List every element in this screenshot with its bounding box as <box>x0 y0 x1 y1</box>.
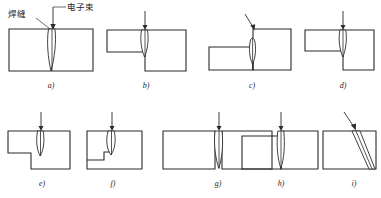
panel-f: f) <box>87 112 142 188</box>
panel-b-left-plate <box>107 30 145 52</box>
weld-seam-leader-line <box>36 18 50 29</box>
panel-g-weld-bead <box>214 131 222 168</box>
panel-c: c) <box>209 14 291 90</box>
annotation-weld-seam: 焊缝 <box>8 9 50 29</box>
panel-i: i) <box>323 112 376 188</box>
panel-i-caption: i) <box>352 179 357 188</box>
weld-seam-label: 焊缝 <box>8 9 26 19</box>
panel-d-caption: d) <box>340 81 347 90</box>
panel-c-beam-arrow-shaft <box>245 14 253 27</box>
panel-e-beam-arrowhead <box>39 126 44 131</box>
panel-a-weld-bead <box>48 29 56 71</box>
panel-c-left-plate <box>209 47 253 70</box>
panel-a: a) <box>9 29 93 90</box>
panel-i-weld-bead <box>352 131 375 169</box>
panel-d: d) <box>305 11 374 90</box>
panel-g-beam-arrowhead <box>217 126 222 131</box>
panel-h-left-plate <box>242 136 281 169</box>
panel-d-right-plate <box>343 30 374 70</box>
annotation-electron-beam: 电子束 <box>50 2 94 30</box>
electron-beam-label: 电子束 <box>67 2 94 12</box>
panel-c-caption: c) <box>249 81 256 90</box>
panel-a-caption: a) <box>48 81 55 90</box>
panel-i-beam-arrowhead <box>351 124 356 131</box>
panel-h-caption: h) <box>278 179 285 188</box>
welding-joint-diagram: 焊缝 电子束 a) b) c) <box>0 0 381 198</box>
panel-g: g) <box>163 112 272 188</box>
panel-g-caption: g) <box>215 179 222 188</box>
panel-d-beam-arrowhead <box>341 25 346 30</box>
panel-h-beam-arrowhead <box>279 126 284 131</box>
panel-g-right-plate <box>222 131 272 169</box>
panel-d-left-plate <box>305 30 343 51</box>
panel-e-caption: e) <box>39 179 46 188</box>
panel-i-weld-centerline <box>356 131 372 169</box>
panel-b-right-plate <box>145 30 186 71</box>
panel-b: b) <box>107 11 186 90</box>
panel-f-caption: f) <box>111 179 116 188</box>
panel-b-weld-bead <box>141 30 148 57</box>
panel-f-weld-bead <box>107 131 115 155</box>
panel-f-internal-notch <box>87 152 112 160</box>
panel-g-left-plate <box>163 131 215 169</box>
panel-b-beam-arrowhead <box>143 25 148 30</box>
panel-h-right-plate <box>281 131 318 169</box>
panel-f-beam-arrowhead <box>110 126 115 131</box>
panel-c-right-plate <box>253 29 291 70</box>
panel-b-caption: b) <box>143 81 150 90</box>
panel-h: h) <box>242 112 318 188</box>
panel-e: e) <box>8 112 70 188</box>
